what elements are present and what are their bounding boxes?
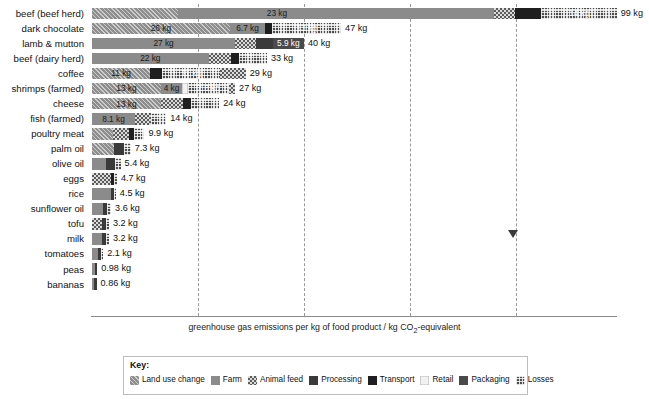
stacked-bar[interactable]: 26 kg6.7 kg13 kg [92,23,341,35]
stacked-bar[interactable] [92,218,109,230]
bar-segment-feed[interactable] [161,98,183,110]
stacked-bar[interactable]: 8.1 kg [92,113,166,125]
bar-row[interactable]: olive oil5.4 kg [0,156,649,171]
legend-items: Land use changeFarmAnimal feedProcessing… [130,376,521,385]
bar-row[interactable]: sunflower oil3.6 kg [0,202,649,217]
bar-segment-farm[interactable]: 22 kg [92,53,209,65]
bar-segment-landuse[interactable]: 13 kg [92,98,161,110]
bar-segment-feed[interactable] [135,113,151,125]
bar-segment-landuse[interactable]: 13 kg [92,83,161,95]
bar-row[interactable]: rice4.5 kg [0,187,649,202]
bar-total-label: 7.3 kg [131,143,160,155]
stacked-bar[interactable] [92,158,121,170]
bar-segment-losses[interactable]: 13 kg [272,23,341,35]
bar-segment-losses[interactable] [151,113,166,125]
bar-total-label: 4.5 kg [116,188,145,200]
bar-row[interactable]: palm oil7.3 kg [0,141,649,156]
stacked-bar[interactable]: 23 kg14 kg [92,8,617,20]
bar-row[interactable]: fish (farmed)8.1 kg14 kg [0,111,649,126]
bar-segment-transport[interactable] [183,98,190,110]
bar-segment-farm[interactable]: 4 kg [161,83,182,95]
legend-item-processing[interactable]: Processing [309,376,362,385]
stacked-bar[interactable] [92,173,117,185]
stacked-bar[interactable] [92,248,103,260]
bar-row[interactable]: beef (dairy herd)22 kg33 kg [0,51,649,66]
bar-total-label: 29 kg [246,67,272,79]
bar-segment-farm[interactable] [92,158,106,170]
bar-segment-farm[interactable] [92,233,102,245]
legend-key: Key: Land use changeFarmAnimal feedProce… [123,356,528,395]
bar-segment-feed[interactable] [92,218,102,230]
stacked-bar[interactable] [92,128,144,140]
bar-row[interactable]: beef (beef herd)23 kg14 kg99 kg [0,6,649,21]
segment-value-label: 5.9 kg [273,38,304,50]
stacked-bar[interactable]: 13 kg [92,98,219,110]
stacked-bar[interactable] [92,188,116,200]
bar-segment-farm[interactable]: 6.7 kg [230,23,266,35]
legend-item-retail[interactable]: Retail [420,376,453,385]
legend-item-losses[interactable]: Losses [516,376,554,385]
bar-row[interactable]: tofu3.2 kg [0,217,649,232]
bar-segment-packaging[interactable]: 5.9 kg [273,38,304,50]
bar-segment-landuse[interactable] [92,8,178,20]
bar-segment-feed[interactable] [92,173,111,185]
bar-segment-losses[interactable] [239,53,267,65]
bar-segment-farm[interactable]: 23 kg [178,8,494,20]
stacked-bar[interactable]: 13 kg4 kg7.8 kg [92,83,235,95]
bar-segment-losses[interactable] [191,98,220,110]
bar-segment-processing[interactable] [114,143,124,155]
bar-row[interactable]: lamb & mutton27 kg5.9 kg40 kg [0,36,649,51]
bar-segment-transport[interactable] [231,53,239,65]
stacked-bar[interactable]: 22 kg [92,53,267,65]
legend-item-transport[interactable]: Transport [368,376,415,385]
bar-segment-processing[interactable] [106,158,115,170]
bar-row[interactable]: shrimps (farmed)13 kg4 kg7.8 kg27 kg [0,81,649,96]
bar-segment-transport[interactable] [150,68,162,80]
bar-segment-transport[interactable] [265,23,272,35]
bar-segment-feed[interactable] [235,38,256,50]
bar-segment-feed[interactable] [220,68,245,80]
stacked-bar[interactable] [92,233,109,245]
segment-value-label: 14 kg [541,8,616,20]
bar-segment-transport[interactable] [515,8,541,20]
segment-value-label: 23 kg [178,8,494,20]
bar-segment-landuse[interactable] [92,143,114,155]
bar-segment-feed[interactable] [209,53,231,65]
bar-row[interactable]: bananas0.86 kg [0,277,649,292]
stacked-bar[interactable] [92,203,111,215]
bar-total-label: 9.9 kg [144,128,173,140]
bar-segment-farm[interactable]: 27 kg [92,38,235,50]
legend-item-landuse[interactable]: Land use change [130,376,205,385]
bar-row[interactable]: eggs4.7 kg [0,172,649,187]
bar-segment-landuse[interactable]: 11 kg [92,68,150,80]
bar-segment-losses[interactable] [124,143,131,155]
bar-row[interactable]: peas0.98 kg [0,262,649,277]
bar-total-label: 0.98 kg [97,263,131,275]
stacked-bar[interactable]: 11 kg11 kg [92,68,246,80]
bar-segment-landuse[interactable]: 26 kg [92,23,230,35]
bar-segment-losses[interactable]: 11 kg [162,68,220,80]
x-axis [91,316,617,317]
bar-segment-farm[interactable]: 8.1 kg [92,113,135,125]
bar-segment-losses[interactable]: 7.8 kg [188,83,229,95]
bar-row[interactable]: dark chocolate26 kg6.7 kg13 kg47 kg [0,21,649,36]
bar-row[interactable]: milk3.2 kg [0,232,649,247]
bar-segment-farm[interactable] [92,188,111,200]
bar-total-label: 3.2 kg [109,233,138,245]
bar-row[interactable]: coffee11 kg11 kg29 kg [0,66,649,81]
legend-item-packaging[interactable]: Packaging [459,376,509,385]
bar-segment-losses[interactable] [134,128,144,140]
bar-row[interactable]: cheese13 kg24 kg [0,96,649,111]
bar-row[interactable]: tomatoes2.1 kg [0,247,649,262]
bar-segment-feed[interactable] [494,8,515,20]
legend-item-feed[interactable]: Animal feed [248,376,303,385]
bar-segment-farm[interactable] [92,203,103,215]
bar-row[interactable]: poultry meat9.9 kg [0,126,649,141]
bar-segment-landuse[interactable] [92,128,113,140]
bar-segment-processing[interactable] [256,38,272,50]
legend-item-farm[interactable]: Farm [211,376,242,385]
stacked-bar[interactable]: 27 kg5.9 kg [92,38,304,50]
stacked-bar[interactable] [92,143,131,155]
bar-segment-feed[interactable] [113,128,129,140]
bar-segment-losses[interactable]: 14 kg [541,8,616,20]
